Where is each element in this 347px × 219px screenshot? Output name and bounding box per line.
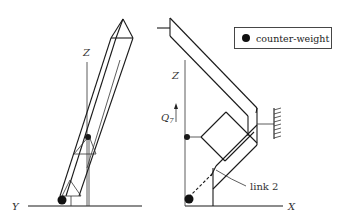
z-axis-label-left: Z [82,47,91,58]
legend-counter-weight-icon [242,34,250,42]
q7-label: Q7 [161,112,174,125]
x-axis-label: X [287,201,296,212]
counter-weight-left [58,196,67,205]
link-prism-top [111,19,133,38]
link2-label: link 2 [250,181,278,192]
link-square-frame [187,112,226,161]
link2-leader [216,170,246,186]
joint-dot-right [184,134,190,140]
legend: counter-weight [235,28,332,49]
joint-dot-left [85,134,91,140]
diagram-canvas: Y Z [0,0,347,219]
legend-label: counter-weight [256,33,329,44]
joint-q7-indicator: Q7 [161,103,178,125]
link-middle-frame [74,136,96,206]
link-top-bracket [157,18,170,36]
z-axis-label-right: Z [171,70,180,81]
counter-weight-arm-dashed [189,174,212,197]
left-view: Y Z [12,19,142,212]
counter-weight-right [185,195,194,204]
y-axis-label: Y [12,201,20,212]
link-long-bars [60,38,133,196]
wall-mount [257,108,281,139]
